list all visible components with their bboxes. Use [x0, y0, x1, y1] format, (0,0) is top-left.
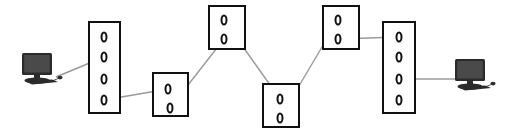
switch-port[interactable] [335, 15, 342, 26]
switch-port[interactable] [167, 103, 174, 114]
link-layer [0, 0, 518, 132]
switch-port[interactable] [221, 15, 228, 26]
desktop-computer-icon [20, 52, 64, 88]
host-computer[interactable] [20, 52, 64, 88]
switch-port[interactable] [277, 113, 284, 124]
switch-port[interactable] [396, 95, 403, 106]
switch-node[interactable] [208, 5, 246, 50]
switch-port[interactable] [396, 32, 403, 43]
switch-port[interactable] [101, 74, 108, 85]
switch-port[interactable] [277, 94, 284, 105]
switch-port[interactable] [101, 95, 108, 106]
host-computer[interactable] [452, 58, 498, 94]
switch-port[interactable] [335, 34, 342, 45]
switch-port[interactable] [396, 74, 403, 85]
switch-port[interactable] [221, 34, 228, 45]
switch-port[interactable] [396, 52, 403, 63]
desktop-computer-icon [452, 58, 498, 94]
switch-port[interactable] [101, 32, 108, 43]
switch-port[interactable] [101, 52, 108, 63]
switch-port[interactable] [165, 84, 172, 95]
network-diagram [0, 0, 518, 132]
switch-node[interactable] [322, 5, 360, 50]
